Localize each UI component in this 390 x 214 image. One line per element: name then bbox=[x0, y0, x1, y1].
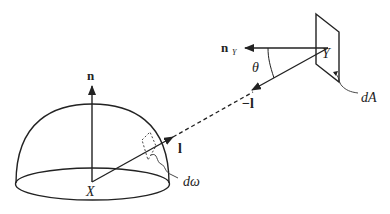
label-ny-subscript: Y bbox=[232, 48, 238, 57]
label-point-x: X bbox=[85, 184, 95, 199]
area-leader bbox=[334, 73, 358, 93]
label-l: l bbox=[178, 141, 182, 156]
theta-arc bbox=[268, 48, 274, 78]
direction-neg-l-arrow bbox=[252, 48, 328, 90]
dashed-line bbox=[173, 92, 253, 137]
label-ny: n bbox=[221, 40, 229, 55]
diagram-canvas: n n Y θ Y −l dA l dω X bbox=[0, 0, 390, 214]
label-n: n bbox=[87, 68, 95, 83]
solid-angle-patch bbox=[142, 132, 156, 160]
label-point-y: Y bbox=[322, 46, 332, 61]
diagram: n n Y θ Y −l dA l dω X bbox=[0, 0, 390, 214]
label-dA: dA bbox=[361, 90, 377, 105]
label-neg-l: −l bbox=[242, 96, 254, 111]
label-domega: dω bbox=[183, 174, 200, 189]
label-theta: θ bbox=[252, 60, 259, 75]
direction-l-arrow bbox=[92, 137, 173, 182]
